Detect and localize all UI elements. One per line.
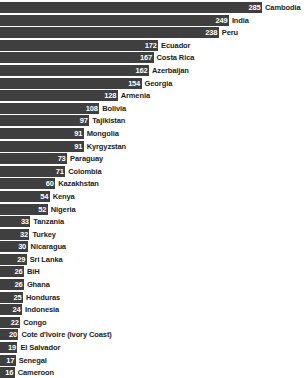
bar-category-label: Bolivia	[99, 103, 126, 114]
bar-category-label: Congo	[20, 317, 46, 328]
bar-value-label: 91	[74, 128, 83, 139]
bar-value-label: 33	[21, 216, 30, 227]
bar-category-label: India	[229, 15, 249, 26]
bar-value-label: 24	[13, 304, 22, 315]
bar-row: 91Kyrgyzstan	[0, 141, 307, 152]
bar-category-label: Mongolia	[84, 128, 119, 139]
bar-category-label: Azerbaijan	[149, 65, 189, 76]
bar-value-label: 249	[215, 15, 228, 26]
bar-category-label: Paraguay	[67, 153, 103, 164]
bar: 17	[0, 355, 16, 366]
bar-value-label: 25	[14, 292, 23, 303]
bar-value-label: 16	[5, 367, 14, 378]
bar-value-label: 22	[11, 317, 20, 328]
bar-value-label: 91	[74, 141, 83, 152]
bar-row: 22Congo	[0, 317, 307, 328]
bar: 26	[0, 279, 24, 290]
bar: 33	[0, 216, 30, 227]
bar: 162	[0, 65, 149, 76]
bar-category-label: Tajikistan	[89, 115, 125, 126]
bar: 26	[0, 266, 24, 277]
bar-row: 26Ghana	[0, 279, 307, 290]
bar-row: 172Ecuador	[0, 40, 307, 51]
bar-value-label: 97	[80, 115, 89, 126]
bar-category-label: Ecuador	[158, 40, 190, 51]
bar-category-label: Tanzania	[30, 216, 64, 227]
bar-category-label: BiH	[24, 266, 40, 277]
bar-category-label: Ghana	[24, 279, 50, 290]
bar: 91	[0, 141, 84, 152]
bar-category-label: Cambodia	[262, 2, 300, 13]
bar-value-label: 19	[8, 342, 17, 353]
bar: 285	[0, 2, 262, 13]
bar-category-label: Senegal	[16, 355, 47, 366]
bar-value-label: 54	[40, 191, 49, 202]
bar-category-label: Peru	[219, 27, 238, 38]
bar-category-label: El Salvador	[17, 342, 60, 353]
bar: 238	[0, 27, 219, 38]
bar-row: 29Sri Lanka	[0, 254, 307, 265]
bar: 52	[0, 204, 48, 215]
bar: 249	[0, 15, 229, 26]
bar: 73	[0, 153, 67, 164]
bar-value-label: 172	[145, 40, 158, 51]
bar-value-label: 167	[140, 52, 153, 63]
bar-row: 128Armenia	[0, 90, 307, 101]
bar-value-label: 162	[136, 65, 149, 76]
bar-category-label: Georgia	[142, 78, 173, 89]
bar-row: 73Paraguay	[0, 153, 307, 164]
bar-row: 249India	[0, 15, 307, 26]
bar-category-label: Honduras	[23, 292, 60, 303]
bar-value-label: 30	[18, 241, 27, 252]
bar-value-label: 20	[9, 329, 18, 340]
bar-row: 154Georgia	[0, 78, 307, 89]
bar-category-label: Kenya	[50, 191, 75, 202]
bar-row: 238Peru	[0, 27, 307, 38]
bar-value-label: 285	[249, 2, 262, 13]
bar-value-label: 60	[46, 178, 55, 189]
bar: 128	[0, 90, 118, 101]
bar-category-label: Turkey	[29, 229, 55, 240]
bar: 19	[0, 342, 17, 353]
bar: 154	[0, 78, 142, 89]
bar: 97	[0, 115, 89, 126]
bar-category-label: Nicaragua	[28, 241, 66, 252]
bar-row: 60Kazakhstan	[0, 178, 307, 189]
bar-value-label: 154	[128, 78, 141, 89]
bar: 71	[0, 166, 65, 177]
bar-category-label: Kyrgyzstan	[84, 141, 126, 152]
bar: 25	[0, 292, 23, 303]
bar: 91	[0, 128, 84, 139]
bar: 24	[0, 304, 22, 315]
bar-row: 108Bolivia	[0, 103, 307, 114]
bar-row: 52Nigeria	[0, 204, 307, 215]
bar: 29	[0, 254, 27, 265]
bar-category-label: Armenia	[118, 90, 150, 101]
bar-category-label: Cote d'Ivoire (Ivory Coast)	[18, 329, 111, 340]
bar: 30	[0, 241, 28, 252]
bar: 172	[0, 40, 158, 51]
bar-row: 16Cameroon	[0, 367, 307, 378]
bar: 22	[0, 317, 20, 328]
bar-row: 26BiH	[0, 266, 307, 277]
bar-row: 91Mongolia	[0, 128, 307, 139]
bar-row: 167Costa Rica	[0, 52, 307, 63]
bar-value-label: 108	[86, 103, 99, 114]
bar-row: 33Tanzania	[0, 216, 307, 227]
bar-row: 24Indonesia	[0, 304, 307, 315]
bar-value-label: 26	[14, 279, 23, 290]
bar-value-label: 26	[14, 266, 23, 277]
bar: 60	[0, 178, 55, 189]
bar-row: 71Colombia	[0, 166, 307, 177]
bar: 16	[0, 367, 15, 378]
bar-row: 162Azerbaijan	[0, 65, 307, 76]
bar-value-label: 128	[104, 90, 117, 101]
bar-row: 97Tajikistan	[0, 115, 307, 126]
bar-category-label: Sri Lanka	[27, 254, 63, 265]
bar-row: 20Cote d'Ivoire (Ivory Coast)	[0, 329, 307, 340]
bar-value-label: 52	[38, 204, 47, 215]
bar: 32	[0, 229, 29, 240]
bar-value-label: 73	[58, 153, 67, 164]
bar-row: 17Senegal	[0, 355, 307, 366]
bar: 108	[0, 103, 99, 114]
